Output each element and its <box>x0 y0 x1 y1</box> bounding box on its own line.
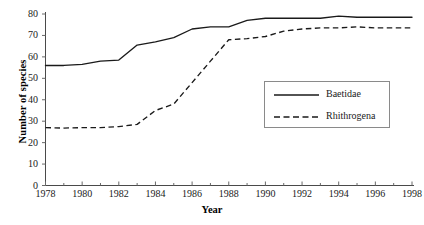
x-tick-label: 1990 <box>245 189 285 199</box>
x-tick-label: 1994 <box>319 189 359 199</box>
series-line-baetidae <box>46 16 413 65</box>
x-tick-label: 1978 <box>26 189 66 199</box>
legend-swatch-dashed-icon <box>274 116 319 118</box>
legend-label-baetidae: Baetidae <box>326 88 361 99</box>
y-tick-label: 80 <box>8 9 38 19</box>
line-chart: 01020304050607080 1978198019821984198619… <box>0 0 424 225</box>
y-tick-label: 70 <box>8 30 38 40</box>
x-tick-label: 1980 <box>62 189 102 199</box>
legend-label-rhithrogena: Rhithrogena <box>326 110 375 121</box>
x-tick-label: 1988 <box>209 189 249 199</box>
x-tick-label: 1984 <box>135 189 175 199</box>
x-tick-label: 1992 <box>282 189 322 199</box>
x-axis-title: Year <box>0 204 424 215</box>
legend-swatch-solid-icon <box>274 94 319 96</box>
x-tick-label: 1998 <box>392 189 424 199</box>
chart-legend: Baetidae Rhithrogena <box>264 81 390 128</box>
y-axis-title: Number of species <box>17 42 28 162</box>
x-tick-label: 1982 <box>99 189 139 199</box>
x-tick-label: 1986 <box>172 189 212 199</box>
x-tick-label: 1996 <box>355 189 395 199</box>
legend-item-rhithrogena: Rhithrogena <box>265 106 391 129</box>
legend-item-baetidae: Baetidae <box>265 84 391 107</box>
